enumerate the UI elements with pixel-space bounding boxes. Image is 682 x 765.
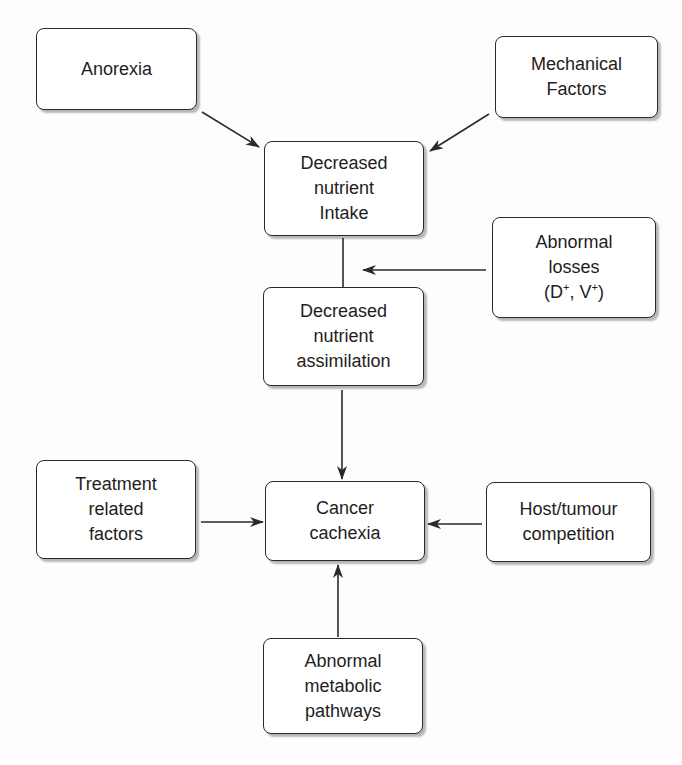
losses-line-1: Abnormal: [535, 230, 612, 255]
diagram-canvas: Anorexia Mechanical Factors Decreased nu…: [0, 0, 682, 765]
node-mechanical-factors: Mechanical Factors: [495, 36, 658, 118]
node-host-tumour-competition-label: Host/tumour competition: [519, 497, 617, 547]
node-treatment-related-factors-label: Treatment related factors: [75, 472, 156, 547]
losses-line-3: (D+, V+): [535, 280, 612, 305]
node-anorexia: Anorexia: [36, 28, 197, 110]
node-mechanical-factors-label: Mechanical Factors: [531, 52, 622, 102]
losses-line-2: losses: [535, 255, 612, 280]
node-cancer-cachexia: Cancer cachexia: [265, 481, 425, 561]
node-abnormal-losses-label: Abnormal losses (D+, V+): [535, 230, 612, 305]
node-abnormal-losses: Abnormal losses (D+, V+): [492, 217, 656, 318]
node-abnormal-metabolic-pathways: Abnormal metabolic pathways: [263, 638, 423, 734]
node-cancer-cachexia-label: Cancer cachexia: [309, 496, 380, 546]
node-decreased-nutrient-intake: Decreased nutrient Intake: [264, 141, 424, 236]
node-host-tumour-competition: Host/tumour competition: [486, 482, 651, 562]
losses-line-3-a: (D: [544, 282, 563, 302]
node-abnormal-metabolic-pathways-label: Abnormal metabolic pathways: [304, 649, 381, 724]
node-decreased-nutrient-intake-label: Decreased nutrient Intake: [300, 151, 387, 226]
node-decreased-nutrient-assimilation-label: Decreased nutrient assimilation: [296, 299, 390, 374]
edge-anorexia-to-intake: [202, 112, 259, 147]
node-decreased-nutrient-assimilation: Decreased nutrient assimilation: [263, 287, 424, 386]
losses-line-3-c: ): [598, 282, 604, 302]
losses-line-3-b: , V: [569, 282, 591, 302]
node-anorexia-label: Anorexia: [81, 57, 152, 82]
node-treatment-related-factors: Treatment related factors: [36, 460, 196, 559]
edge-mechanical-to-intake: [430, 114, 489, 151]
